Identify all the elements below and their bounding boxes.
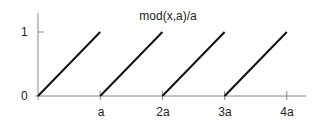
- x-tick-label-3a: 3a: [218, 105, 232, 119]
- line-segment-2: [100, 32, 162, 96]
- line-segment-3: [162, 32, 224, 96]
- y-tick-label-1: 1: [21, 25, 28, 39]
- x-tick-label-4a: 4a: [280, 105, 294, 119]
- chart-title: mod(x,a)/a: [139, 9, 197, 23]
- x-tick-label-2a: 2a: [156, 105, 170, 119]
- line-segment-1: [38, 32, 100, 96]
- chart: mod(x,a)/a 1 0 a 2a 3a 4a: [0, 0, 319, 123]
- line-segment-4: [225, 32, 287, 96]
- y-tick-label-0: 0: [21, 89, 28, 103]
- x-tick-label-a: a: [98, 105, 105, 119]
